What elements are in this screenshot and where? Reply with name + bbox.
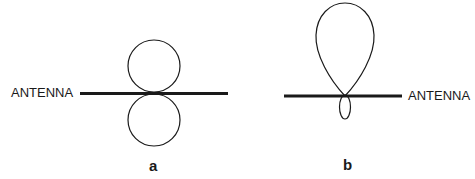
upper-lobe-a xyxy=(128,40,180,92)
caption-b: b xyxy=(343,156,352,173)
lower-lobe-a xyxy=(128,94,180,146)
main-lobe-b xyxy=(316,3,374,96)
back-lobe-b xyxy=(340,95,351,119)
antenna-label-a: ANTENNA xyxy=(11,85,73,100)
caption-a: a xyxy=(149,157,157,174)
diagram-b xyxy=(284,3,402,119)
diagram-a xyxy=(80,40,228,146)
antenna-label-b: ANTENNA xyxy=(408,88,470,103)
